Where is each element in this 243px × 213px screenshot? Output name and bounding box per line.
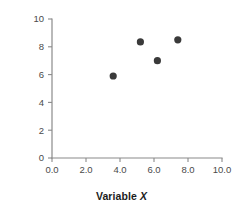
x-tick-label: 6.0 xyxy=(147,164,160,175)
x-tick-label: 4.0 xyxy=(113,164,126,175)
y-tick-label: 4 xyxy=(39,97,44,108)
y-tick-label: 8 xyxy=(39,41,44,52)
x-tick-label: 10.0 xyxy=(213,164,232,175)
axes xyxy=(52,19,222,158)
x-axis-title-variable: X xyxy=(140,190,147,202)
x-axis-title-text: Variable xyxy=(96,190,140,202)
y-tick-label: 0 xyxy=(39,152,44,163)
data-point-marker xyxy=(110,72,117,79)
plot-canvas: 0246810 0.02.04.06.08.010.0 xyxy=(0,0,243,213)
data-point-marker xyxy=(174,36,181,43)
data-point-marker xyxy=(154,57,161,64)
x-tick-label: 8.0 xyxy=(181,164,194,175)
x-tick-label: 2.0 xyxy=(79,164,92,175)
x-tick-label: 0.0 xyxy=(45,164,58,175)
scatter-plot-figure: 0246810 0.02.04.06.08.010.0 Variable X V… xyxy=(0,0,243,213)
x-axis-title: Variable X xyxy=(0,190,243,202)
x-axis-ticks: 0.02.04.06.08.010.0 xyxy=(45,158,231,175)
data-point-marker xyxy=(137,38,144,45)
y-tick-label: 6 xyxy=(39,69,44,80)
y-tick-label: 10 xyxy=(33,13,44,24)
data-points xyxy=(110,36,182,79)
y-tick-label: 2 xyxy=(39,125,44,136)
y-axis-ticks: 0246810 xyxy=(33,13,52,163)
